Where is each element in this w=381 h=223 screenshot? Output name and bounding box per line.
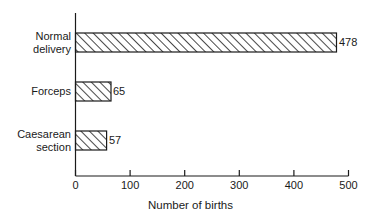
bar-normal-delivery: [76, 33, 337, 52]
value-label-forceps: 65: [113, 85, 125, 97]
value-label-caesarean-section: 57: [109, 134, 121, 146]
x-tick-label-400: 400: [285, 179, 303, 191]
category-label-caesarean-section: Caesarean section: [1, 128, 71, 153]
value-label-normal-delivery: 478: [339, 36, 357, 48]
x-axis-title: Number of births: [0, 199, 381, 211]
category-label-forceps: Forceps: [1, 85, 71, 98]
x-tick-label-500: 500: [339, 179, 357, 191]
x-tick-label-300: 300: [230, 179, 248, 191]
bar-chart-figure: Normal delivery Forceps Caesarean sectio…: [0, 0, 381, 223]
category-label-normal-delivery: Normal delivery: [1, 30, 71, 55]
x-tick-label-200: 200: [176, 179, 194, 191]
x-tick-label-100: 100: [121, 179, 139, 191]
bar-caesarean-section: [76, 131, 107, 150]
bar-forceps: [76, 82, 112, 101]
x-tick-label-0: 0: [72, 179, 78, 191]
x-axis-ticks: [76, 170, 349, 176]
